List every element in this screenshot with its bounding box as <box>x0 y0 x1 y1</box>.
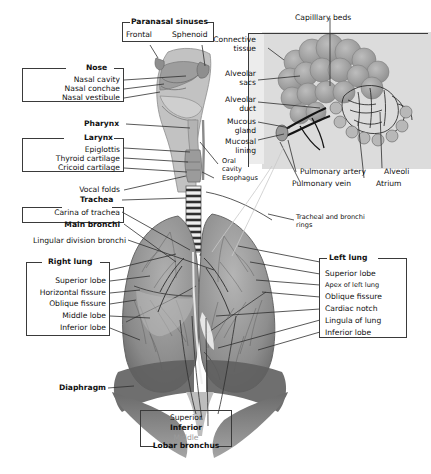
label-right-superior-lobe: Superior lobe <box>12 277 106 286</box>
label-alveoli: Alveoli <box>384 168 409 177</box>
label-diaphragm: Diaphragm <box>20 384 106 393</box>
label-lingular-division-bronchi: Lingular division bronchi <box>14 237 126 246</box>
right-lung-bracket-right <box>100 262 110 263</box>
label-alveolar-duct: Alveolar duct <box>196 96 256 113</box>
label-pulmonary-vein: Pulmonary vein <box>292 180 351 189</box>
label-left-superior-lobe: Superior lobe <box>325 270 376 279</box>
trachea-artwork <box>158 186 234 272</box>
label-mucous-gland: Mucous gland <box>196 118 256 135</box>
nose-header: Nose <box>86 64 107 73</box>
label-alveolar-sacs: Alveolar sacs <box>196 70 256 87</box>
label-left-oblique-fissure: Oblique fissure <box>325 293 382 302</box>
nose-bracket-left <box>22 68 66 69</box>
nose-bracket-right <box>114 68 124 69</box>
right-lung-bracket-left <box>26 262 42 263</box>
label-apex-of-left-lung: Apex of left lung <box>325 282 379 290</box>
lobar-bronchus-header: Lobar bronchus <box>140 442 232 451</box>
paranasal-sinuses-header: Paranasal sinuses <box>131 18 208 27</box>
label-right-inferior-lobe: Inferior lobe <box>12 324 106 333</box>
label-left-inferior-lobe: Inferior lobe <box>325 329 371 338</box>
right-lung-artwork <box>123 216 200 392</box>
left-lung-artwork <box>199 214 275 392</box>
respiratory-diagram: Paranasal sinuses Frontal Sphenoid Nose … <box>0 0 431 474</box>
label-capillary-beds: Capilllary beds <box>295 14 351 23</box>
label-pharynx: Pharynx <box>84 120 119 129</box>
trachea-header: Trachea <box>80 196 113 205</box>
label-cardiac-notch: Cardiac notch <box>325 305 378 314</box>
label-nasal-vestibule: Nasal vestibule <box>24 94 120 103</box>
label-oral-cavity: Oral cavity <box>222 158 242 173</box>
label-middle-lobe: Middle lobe <box>12 312 106 321</box>
left-lung-header: Left lung <box>329 254 367 263</box>
label-lobar-superior: Superior <box>140 414 232 423</box>
left-lung-bracket-left <box>319 258 327 259</box>
paranasal-bracket-left <box>122 22 130 23</box>
label-atrium: Atrium <box>376 180 401 189</box>
label-esophagus: Esophagus <box>222 175 258 183</box>
label-vocal-folds: Vocal folds <box>24 186 120 195</box>
label-lingula-of-lung: Lingula of lung <box>325 317 381 326</box>
larynx-bracket-right <box>114 138 124 139</box>
label-pulmonary-artery: Pulmonary artery <box>300 168 366 177</box>
label-cricoid-cartilage: Cricoid cartilage <box>14 164 120 173</box>
label-lobar-inferior: Inferior <box>140 424 232 433</box>
label-main-bronchi: Main bronchi <box>24 221 120 230</box>
label-mucosal-lining: Mucosal lining <box>196 138 256 155</box>
left-lung-bracket-right <box>378 258 407 259</box>
label-tracheal-and-bronchi-rings: Tracheal and bronchi rings <box>296 214 365 229</box>
larynx-header: Larynx <box>84 134 113 143</box>
label-connective-tissue: Connective tissue <box>196 36 256 53</box>
larynx-bracket-left <box>22 138 64 139</box>
label-horizontal-fissure: Horizontal fissure <box>4 289 106 298</box>
alveoli-inset-artwork <box>276 34 412 150</box>
right-lung-header: Right lung <box>48 258 92 267</box>
label-frontal-sinus: Frontal <box>126 31 152 40</box>
inset-frame-top <box>248 33 428 34</box>
label-right-oblique-fissure: Oblique fissure <box>8 300 106 309</box>
label-carina-of-trachea: Carina of trachea <box>20 209 120 218</box>
